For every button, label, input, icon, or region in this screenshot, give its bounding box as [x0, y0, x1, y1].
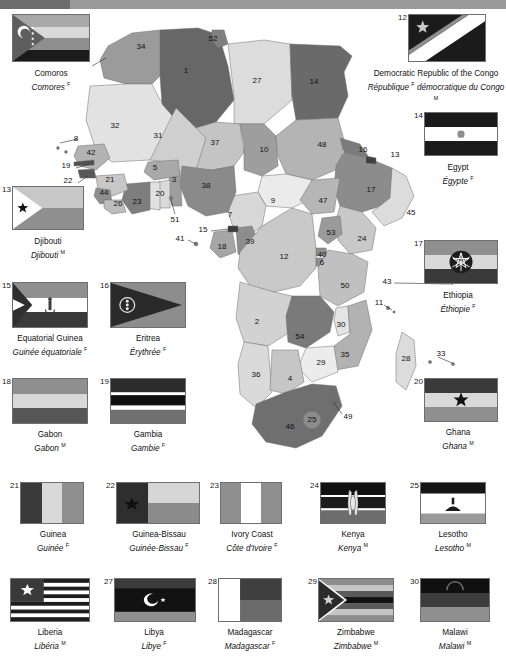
- map-number-25[interactable]: 25: [308, 416, 317, 424]
- flag-image[interactable]: [114, 578, 196, 622]
- map-number-2[interactable]: 2: [255, 318, 259, 326]
- flag-image[interactable]: [12, 378, 88, 424]
- map-number-52[interactable]: 52: [209, 35, 218, 43]
- flag-card-guinea[interactable]: 21: [20, 482, 84, 524]
- map-number-10[interactable]: 10: [260, 146, 269, 154]
- flag-image[interactable]: [10, 578, 90, 622]
- flag-card-eritrea[interactable]: 16: [110, 282, 186, 328]
- map-number-42[interactable]: 42: [87, 149, 96, 157]
- flag-image[interactable]: [12, 282, 88, 328]
- flag-image[interactable]: [12, 14, 90, 62]
- flag-card-ethiopia[interactable]: 17: [424, 240, 498, 284]
- map-number-16[interactable]: 16: [359, 146, 368, 154]
- map-number-33[interactable]: 33: [437, 350, 446, 358]
- map-number-11[interactable]: 11: [375, 299, 383, 307]
- flag-card-gabon[interactable]: 18: [12, 378, 88, 424]
- map-number-49[interactable]: 49: [344, 413, 353, 421]
- map-number-44[interactable]: 44: [100, 189, 109, 197]
- flag-image[interactable]: [12, 186, 84, 230]
- flag-image[interactable]: [424, 240, 498, 284]
- map-number-26[interactable]: 26: [114, 200, 123, 208]
- map-number-21[interactable]: 21: [106, 176, 115, 184]
- map-number-30[interactable]: 30: [337, 321, 346, 329]
- flag-card-kenya[interactable]: 24: [320, 482, 386, 524]
- flag-card-ivory-coast[interactable]: 23: [220, 482, 282, 524]
- flag-image[interactable]: [420, 578, 490, 622]
- country-name-fr: Côte d'Ivoire F: [206, 540, 298, 554]
- map-number-43[interactable]: 43: [383, 278, 392, 286]
- flag-card-djibouti[interactable]: 13: [12, 186, 84, 230]
- flag-image[interactable]: [110, 282, 186, 328]
- map-number-35[interactable]: 35: [341, 351, 350, 359]
- flag-card-democratic-republic-of-the-congo[interactable]: 12: [408, 14, 486, 62]
- flag-image[interactable]: [424, 378, 498, 422]
- country-name-fr: Éthiopie F: [410, 301, 506, 315]
- flag-image[interactable]: [408, 14, 486, 62]
- map-number-12[interactable]: 12: [280, 253, 289, 261]
- map-number-5[interactable]: 5: [153, 164, 157, 172]
- map-number-24[interactable]: 24: [358, 235, 367, 243]
- map-number-19[interactable]: 19: [62, 162, 71, 170]
- flag-image[interactable]: [110, 378, 186, 424]
- flag-card-madagascar[interactable]: 28: [218, 578, 282, 622]
- map-number-39[interactable]: 39: [246, 238, 255, 246]
- country-name-en: Zimbabwe: [308, 628, 404, 638]
- map-number-17[interactable]: 17: [367, 186, 376, 194]
- map-number-7[interactable]: 7: [228, 211, 232, 219]
- map-number-28[interactable]: 28: [402, 355, 411, 363]
- map-number-8[interactable]: 8: [74, 135, 78, 143]
- flag-card-guinea-bissau[interactable]: 22: [116, 482, 200, 524]
- flag-card-comoros[interactable]: 11: [12, 14, 90, 62]
- flag-image[interactable]: [116, 482, 200, 524]
- flag-card-lesotho[interactable]: 25: [420, 482, 486, 524]
- map-number-18[interactable]: 18: [218, 243, 227, 251]
- flag-card-libya[interactable]: 27: [114, 578, 196, 622]
- map-number-50[interactable]: 50: [341, 282, 350, 290]
- map-number-27[interactable]: 27: [253, 77, 262, 85]
- map-number-9[interactable]: 9: [271, 197, 275, 205]
- map-number-4[interactable]: 4: [288, 375, 292, 383]
- flag-image[interactable]: [220, 482, 282, 524]
- map-number-14[interactable]: 14: [310, 78, 319, 86]
- map-number-47[interactable]: 47: [319, 197, 328, 205]
- map-number-46[interactable]: 46: [286, 423, 295, 431]
- flag-number: 17: [414, 239, 423, 248]
- map-number-38[interactable]: 38: [202, 182, 211, 190]
- flag-card-egypt[interactable]: 14: [424, 112, 498, 156]
- flag-image[interactable]: [320, 482, 386, 524]
- flag-image[interactable]: [424, 112, 498, 156]
- map-number-6[interactable]: 6: [320, 259, 324, 267]
- flag-card-gambia[interactable]: 19: [110, 378, 186, 424]
- flag-card-malawi[interactable]: 30: [420, 578, 490, 622]
- flag-card-equatorial-guinea[interactable]: 15: [12, 282, 88, 328]
- flag-caption: LibyaLibye F: [106, 628, 202, 652]
- map-number-34[interactable]: 34: [137, 43, 146, 51]
- flag-card-ghana[interactable]: 20: [424, 378, 498, 422]
- map-number-1[interactable]: 1: [184, 67, 188, 75]
- map-number-23[interactable]: 23: [133, 198, 142, 206]
- flag-card-zimbabwe[interactable]: 29: [318, 578, 394, 622]
- flag-image[interactable]: [20, 482, 84, 524]
- country-name-fr: Égypte F: [410, 173, 506, 187]
- map-number-54[interactable]: 54: [296, 333, 305, 341]
- flag-image[interactable]: [218, 578, 282, 622]
- flag-card-liberia[interactable]: 26: [10, 578, 90, 622]
- map-number-3[interactable]: 3: [172, 176, 176, 184]
- map-number-41[interactable]: 41: [176, 235, 185, 243]
- map-number-36[interactable]: 36: [252, 371, 261, 379]
- map-number-20[interactable]: 20: [156, 190, 165, 198]
- map-number-32[interactable]: 32: [111, 122, 120, 130]
- map-number-53[interactable]: 53: [327, 229, 336, 237]
- map-number-37[interactable]: 37: [211, 139, 220, 147]
- map-number-22[interactable]: 22: [64, 177, 73, 185]
- map-number-48[interactable]: 48: [318, 141, 327, 149]
- map-number-31[interactable]: 31: [154, 132, 163, 140]
- map-number-29[interactable]: 29: [317, 359, 326, 367]
- map-number-45[interactable]: 45: [407, 209, 416, 217]
- map-number-51[interactable]: 51: [171, 216, 180, 224]
- map-number-13[interactable]: 13: [391, 151, 400, 159]
- map-number-15[interactable]: 15: [199, 226, 208, 234]
- flag-image[interactable]: [420, 482, 486, 524]
- country-name-en: Guinea-Bissau: [104, 530, 214, 540]
- flag-image[interactable]: [318, 578, 394, 622]
